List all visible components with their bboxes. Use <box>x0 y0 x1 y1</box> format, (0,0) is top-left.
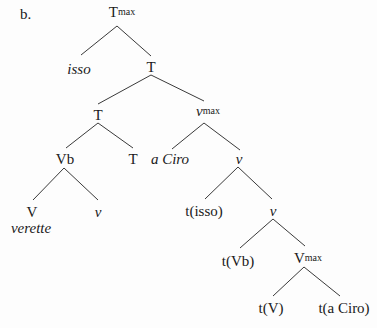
tree-edge <box>240 219 273 248</box>
tree-node-Vmax: Vmax <box>294 251 322 266</box>
node-label: verette <box>11 220 51 236</box>
tree-node-aciro: a Ciro <box>151 152 189 167</box>
tree-node-tvb: t(Vb) <box>222 254 255 269</box>
tree-edge <box>273 267 304 296</box>
node-label: t(a Ciro) <box>318 300 369 316</box>
tree-edge <box>304 267 340 296</box>
node-label: T <box>93 107 102 123</box>
tree-edge <box>204 123 240 150</box>
tree-node-isso: isso <box>67 62 90 77</box>
tree-node-vb: Vb <box>56 152 74 167</box>
node-label: t(Vb) <box>222 253 255 269</box>
tree-edge <box>98 123 133 148</box>
tree-node-taciro: t(a Ciro) <box>318 301 369 316</box>
tree-edge <box>81 26 117 55</box>
tree-node-v1: v <box>236 152 243 167</box>
node-superscript: max <box>305 252 322 263</box>
tree-node-tisso: t(isso) <box>185 204 223 219</box>
tree-node-v2: v <box>95 205 102 220</box>
node-label: T <box>146 59 155 75</box>
node-label: isso <box>67 61 90 77</box>
tree-node-vmax: vmax <box>196 104 220 119</box>
node-label: v <box>196 103 203 119</box>
tree-edge <box>117 26 151 56</box>
tree-edge <box>205 167 238 199</box>
tree-edge <box>66 123 98 148</box>
node-label: v <box>270 203 277 219</box>
tree-edge <box>172 123 204 149</box>
node-label: V <box>27 204 38 220</box>
syntax-tree-diagram: b. TmaxissoTTvmaxVbTa CirovVverettevt(is… <box>0 0 377 328</box>
node-label: v <box>236 151 243 167</box>
node-label: T <box>128 151 137 167</box>
tree-node-t1: T <box>146 60 155 75</box>
tree-edge <box>33 168 64 200</box>
tree-edge <box>273 219 305 246</box>
node-label: v <box>95 204 102 220</box>
tree-edge <box>64 168 98 200</box>
tree-node-t2: T <box>93 108 102 123</box>
tree-edge <box>238 167 272 199</box>
node-superscript: max <box>203 105 220 116</box>
tree-node-t3: T <box>128 152 137 167</box>
tree-edge <box>98 75 151 104</box>
node-superscript: max <box>118 6 135 17</box>
node-label: t(V) <box>259 300 284 316</box>
tree-node-v3: v <box>270 204 277 219</box>
tree-node-tmax: Tmax <box>109 5 135 20</box>
node-label: a Ciro <box>151 151 189 167</box>
tree-node-V: V <box>27 205 38 220</box>
node-label: t(isso) <box>185 203 223 219</box>
node-label: V <box>294 250 305 266</box>
tree-node-tV: t(V) <box>259 301 284 316</box>
tree-node-verette: verette <box>11 221 51 236</box>
tree-edge <box>151 75 204 101</box>
node-label: Vb <box>56 151 74 167</box>
node-label: T <box>109 4 118 20</box>
